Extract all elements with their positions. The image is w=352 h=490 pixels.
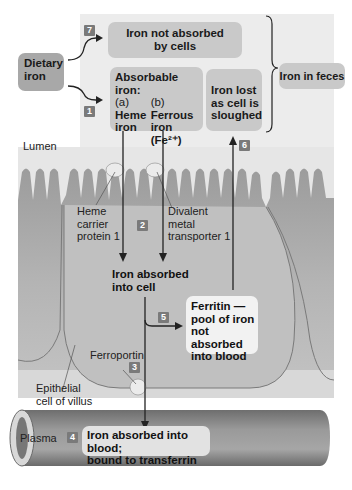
ferrous-iron-line-2: iron (Fe²⁺)	[151, 121, 203, 146]
dmt1-line-1: Divalent	[168, 205, 230, 218]
not-absorbed-line-1: Iron not absorbed	[108, 27, 242, 40]
heme-iron-marker: (a)	[115, 96, 151, 109]
ferrous-iron-line-1: Ferrous	[151, 109, 203, 122]
iron-in-feces-box: Iron in feces	[279, 63, 345, 89]
step-7-badge: 7	[84, 25, 95, 36]
step-4-badge: 4	[67, 432, 78, 443]
heme-carrier-line-2: carrier	[77, 218, 120, 231]
heme-carrier-label: Heme carrier protein 1	[77, 205, 120, 243]
heme-iron-line-1: Heme	[115, 109, 151, 122]
absorbable-heading-2: iron:	[115, 84, 203, 97]
iron-lost-line-3: sloughed	[211, 109, 262, 122]
dmt1-line-2: metal	[168, 218, 230, 231]
heme-iron-line-2: iron	[115, 121, 151, 134]
step-2-badge: 2	[137, 220, 148, 231]
ferritin-line-3: not absorbed	[191, 325, 258, 350]
absorbed-cell-line-2: into cell	[112, 281, 189, 294]
epithelial-cell-label: Epithelial cell of villus	[36, 382, 92, 407]
not-absorbed-line-2: by cells	[108, 40, 242, 53]
plasma-label: Plasma	[20, 432, 57, 445]
epithelial-line-1: Epithelial	[36, 382, 92, 395]
dmt1-line-3: transporter 1	[168, 230, 230, 243]
dietary-iron-box: Dietary iron	[18, 53, 64, 91]
iron-absorbed-into-cell-label: Iron absorbed into cell	[112, 268, 189, 293]
iron-lost-line-2: as cell is	[211, 97, 262, 110]
lumen-label: Lumen	[23, 140, 57, 153]
dmt1-label: Divalent metal transporter 1	[168, 205, 230, 243]
absorbable-heading-1: Absorbable	[115, 71, 203, 84]
absorbed-blood-line-2: bound to transferrin	[87, 454, 210, 467]
heme-carrier-line-3: protein 1	[77, 230, 120, 243]
iron-not-absorbed-box: Iron not absorbed by cells	[108, 22, 242, 58]
ferritin-line-2: pool of iron	[191, 313, 258, 326]
iron-absorbed-into-blood-box: Iron absorbed into blood; bound to trans…	[82, 426, 210, 456]
ferritin-line-4: into blood	[191, 350, 258, 363]
dietary-iron-label: Dietary iron	[24, 57, 63, 82]
step-6-badge: 6	[239, 140, 250, 151]
heme-carrier-line-1: Heme	[77, 205, 120, 218]
ferritin-line-1: Ferritin —	[191, 300, 258, 313]
epithelial-line-2: cell of villus	[36, 395, 92, 408]
ferroportin-label: Ferroportin	[90, 349, 144, 362]
ferrous-iron-marker: (b)	[151, 96, 203, 109]
step-5-badge: 5	[158, 312, 169, 323]
absorbable-iron-box: Absorbable iron: (a) Heme iron (b) Ferro…	[110, 67, 203, 131]
iron-lost-line-1: Iron lost	[211, 84, 262, 97]
step-1-badge: 1	[84, 106, 95, 117]
step-3-badge: 3	[129, 362, 140, 373]
absorbed-blood-line-1: Iron absorbed into blood;	[87, 429, 210, 454]
iron-in-feces-label: Iron in feces	[280, 70, 345, 82]
ferritin-box: Ferritin — pool of iron not absorbed int…	[186, 296, 258, 354]
absorbed-cell-line-1: Iron absorbed	[112, 268, 189, 281]
iron-lost-box: Iron lost as cell is sloughed	[206, 69, 262, 131]
